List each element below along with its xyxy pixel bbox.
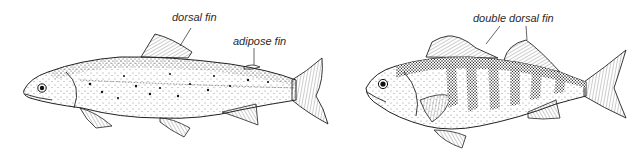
perch-spiny-dorsal-fin — [426, 36, 498, 58]
perch-illustration — [366, 26, 626, 148]
trout-dorsal-fin — [141, 34, 192, 58]
trout-caudal-fin — [292, 58, 328, 124]
label-adipose-fin: adipose fin — [233, 35, 286, 47]
perch-pelvic-fin — [434, 130, 466, 148]
perch-caudal-fin — [584, 50, 626, 118]
fish-fin-diagram: dorsal fin adipose fin double dorsal fin — [0, 0, 643, 160]
trout-pelvic-fin — [160, 118, 190, 137]
dorsal-fin-leader — [180, 28, 191, 46]
double-dorsal-leader-1 — [486, 26, 500, 44]
label-double-dorsal-fin: double dorsal fin — [473, 12, 554, 24]
double-dorsal-leader-2 — [526, 26, 527, 40]
label-dorsal-fin: dorsal fin — [172, 11, 217, 23]
illustration-canvas — [0, 0, 643, 160]
